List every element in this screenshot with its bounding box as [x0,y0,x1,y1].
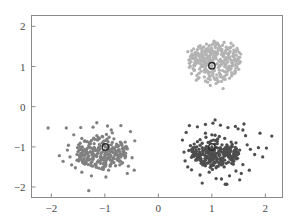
data-point [185,131,188,134]
data-point [222,60,225,63]
data-point [198,151,201,154]
data-point [219,149,222,152]
data-point [104,175,107,178]
data-point [109,163,112,166]
data-point [124,140,127,143]
data-point [86,151,89,154]
data-point [190,49,193,52]
data-point [235,62,238,65]
data-point [182,150,185,153]
data-point [78,155,81,158]
data-point [105,138,108,141]
data-point [220,48,223,51]
data-point [210,43,213,46]
data-point [214,57,217,60]
data-point [215,73,218,76]
data-point [198,155,201,158]
data-point [87,189,90,192]
data-point [228,174,231,177]
data-point [211,58,214,61]
data-point [204,136,207,139]
data-point [114,150,117,153]
data-point [198,58,201,61]
data-point [232,160,235,163]
data-point [240,172,243,175]
data-point [212,76,215,79]
data-point [225,183,228,186]
data-point [107,169,110,172]
data-point [195,145,198,148]
data-point [196,158,199,161]
data-point [234,156,237,159]
data-point [235,65,238,68]
data-point [212,152,215,155]
data-point [218,153,221,156]
data-point [208,171,211,174]
data-point [216,140,219,143]
data-point [229,67,232,70]
data-point [101,135,104,138]
data-point [261,155,264,158]
data-point [234,50,237,53]
data-point [225,73,228,76]
figure-background [0,0,297,224]
data-point [117,144,120,147]
data-point [83,148,86,151]
data-point [223,165,226,168]
data-point [111,146,114,149]
x-tick-label: 0 [156,202,162,214]
data-point [102,156,105,159]
data-point [244,134,247,137]
data-point [224,148,227,151]
data-point [210,52,213,55]
data-point [90,174,93,177]
data-point [72,133,75,136]
data-point [236,127,239,130]
data-point [214,82,217,85]
data-point [232,163,235,166]
data-point [199,47,202,50]
data-point [234,125,237,128]
data-point [201,146,204,149]
data-point [237,56,240,59]
data-point [204,68,207,71]
data-point [125,145,128,148]
data-point [195,153,198,156]
data-point [199,159,202,162]
data-point [67,144,70,147]
data-point [110,158,113,161]
x-tick-label: −2 [45,202,57,214]
data-point [115,157,118,160]
data-point [222,151,225,154]
data-point [124,154,127,157]
data-point [92,152,95,155]
data-point [126,172,129,175]
data-point [188,66,191,69]
data-point [119,152,122,155]
data-point [212,55,215,58]
data-point [201,181,204,184]
data-point [75,158,78,161]
data-point [129,130,132,133]
data-point [81,153,84,156]
data-point [232,53,235,56]
data-point [216,146,219,149]
data-point [196,140,199,143]
data-point [109,150,112,153]
data-point [98,137,101,140]
data-point [95,155,98,158]
data-point [234,148,237,151]
data-point [248,169,251,172]
y-tick-label: 0 [20,101,26,113]
data-point [203,75,206,78]
data-point [198,138,201,141]
data-point [230,61,233,64]
data-point [111,131,114,134]
data-point [223,137,226,140]
data-point [233,151,236,154]
data-point [205,148,208,151]
data-point [233,69,236,72]
data-point [112,137,115,140]
data-point [211,70,214,73]
data-point [181,138,184,141]
